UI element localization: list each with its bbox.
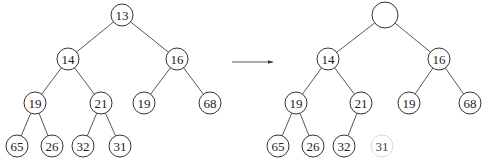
node-label: 14: [62, 52, 76, 67]
heap-node: 16: [428, 48, 450, 70]
heap-node: 26: [302, 135, 324, 157]
tree-edge: [21, 113, 31, 136]
tree-edge: [131, 22, 169, 52]
heap-node: 68: [199, 92, 221, 114]
tree-edge: [184, 68, 204, 94]
tree-edge: [337, 23, 375, 52]
heap-node: 26: [41, 135, 63, 157]
node-label: 68: [204, 96, 217, 111]
node-label: 65: [11, 139, 24, 154]
node-label: 19: [403, 96, 416, 111]
node-label: 19: [29, 96, 42, 111]
node-label: 31: [376, 139, 389, 154]
node-label: 21: [355, 96, 368, 111]
heap-node: 14: [317, 48, 339, 70]
node-label: 16: [433, 52, 447, 67]
edges: [21, 22, 463, 136]
tree-edge: [151, 68, 171, 94]
node-circle: [372, 2, 398, 28]
heap-node: 65: [267, 135, 289, 157]
nodes: 1314161921196865263231141619211968652632…: [6, 2, 481, 157]
node-label: 68: [464, 96, 477, 111]
heap-node: 31: [371, 135, 393, 157]
node-label: 19: [290, 96, 303, 111]
tree-edge: [395, 23, 430, 52]
heap-node: 19: [133, 92, 155, 114]
tree-edge: [42, 68, 62, 94]
node-label: 14: [322, 52, 336, 67]
node-label: 26: [46, 139, 60, 154]
heap-node: 21: [90, 92, 112, 114]
node-label: 21: [95, 96, 108, 111]
heap-node: 19: [398, 92, 420, 114]
heap-node: 32: [72, 135, 94, 157]
tree-edge: [445, 68, 463, 94]
tree-edge: [39, 113, 48, 136]
diagram-svg: 1314161921196865263231141619211968652632…: [0, 0, 487, 164]
heap-node: 21: [350, 92, 372, 114]
node-label: 31: [114, 139, 127, 154]
node-label: 13: [116, 8, 129, 23]
empty-root-node: [372, 2, 398, 28]
tree-edge: [87, 113, 97, 136]
tree-edge: [300, 113, 309, 136]
tree-edge: [105, 113, 115, 136]
heap-deletemin-diagram: 1314161921196865263231141619211968652632…: [0, 0, 487, 164]
heap-node: 13: [111, 4, 133, 26]
heap-node: 65: [6, 135, 28, 157]
tree-edge: [415, 68, 433, 94]
heap-node: 19: [285, 92, 307, 114]
tree-edge: [335, 68, 355, 94]
node-label: 19: [138, 96, 151, 111]
node-label: 32: [338, 139, 351, 154]
node-label: 16: [171, 52, 185, 67]
tree-edge: [75, 68, 95, 94]
tree-edge: [282, 113, 292, 136]
heap-node: 14: [57, 48, 79, 70]
tree-edge: [302, 68, 321, 94]
heap-node: 31: [109, 135, 131, 157]
node-label: 26: [307, 139, 321, 154]
node-label: 65: [272, 139, 285, 154]
node-label: 32: [77, 139, 90, 154]
heap-node: 32: [333, 135, 355, 157]
tree-edge: [77, 22, 114, 52]
heap-node: 19: [24, 92, 46, 114]
heap-node: 16: [166, 48, 188, 70]
heap-node: 68: [459, 92, 481, 114]
tree-edge: [348, 113, 357, 136]
